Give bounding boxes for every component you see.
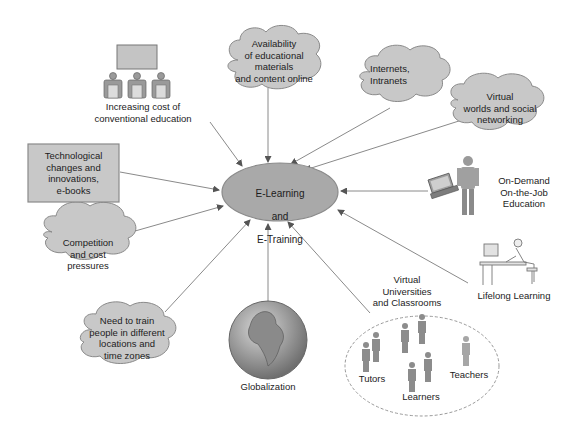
laptop-person-icon (426, 156, 479, 215)
label-competition: Competition and cost pressures (48, 237, 128, 272)
label-on-demand: On-Demand On-the-Job Education (484, 175, 564, 210)
globe-icon (229, 301, 307, 379)
diagram-canvas: E-Learning and E-Training Increasing cos… (0, 0, 587, 426)
label-lifelong: Lifelong Learning (464, 290, 564, 302)
center-line2: and (232, 211, 328, 223)
label-learners: Learners (396, 391, 446, 403)
label-technological: Technological changes and innovations, e… (28, 150, 119, 196)
label-virtual-worlds: Virtual worlds and social networking (456, 91, 544, 126)
center-label: E-Learning and E-Training (232, 176, 328, 257)
label-globalization: Globalization (225, 381, 311, 393)
label-conventional: Increasing cost of conventional educatio… (88, 101, 198, 124)
label-need-to-train: Need to train people in different locati… (84, 315, 170, 361)
classroom-icon (104, 45, 170, 98)
label-teachers: Teachers (444, 369, 494, 381)
center-line3: E-Training (232, 234, 328, 246)
desk-computer-icon (480, 239, 537, 285)
label-internets: Internets, Intranets (370, 63, 440, 86)
label-tutors: Tutors (354, 373, 390, 385)
label-availability: Availability of educational materials an… (226, 38, 322, 84)
center-line1: E-Learning (232, 188, 328, 200)
label-virtual-universities: Virtual Universities and Classrooms (362, 274, 452, 309)
